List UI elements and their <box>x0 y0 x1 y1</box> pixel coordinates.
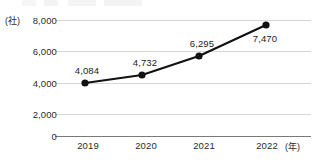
x-axis-unit-label: (年) <box>285 140 300 153</box>
series-line <box>85 25 266 83</box>
x-tick-label-2021: 2021 <box>193 140 215 151</box>
series-group <box>0 0 313 160</box>
x-tick-label-2020: 2020 <box>135 140 157 151</box>
x-tick-label-2019: 2019 <box>77 140 99 151</box>
data-point-2020 <box>138 71 145 78</box>
data-label-2019: 4,084 <box>75 65 99 76</box>
data-label-2020: 4,732 <box>133 57 157 68</box>
x-tick-label-2022: 2022 <box>256 140 278 151</box>
data-point-2019 <box>81 79 88 86</box>
data-label-2021: 6,295 <box>190 38 214 49</box>
data-label-2022: 7,470 <box>253 33 277 44</box>
line-chart: (社) 8,000 6,000 4,000 2,000 0 4,084 4,73… <box>0 0 313 160</box>
data-point-2021 <box>195 52 202 59</box>
data-point-2022 <box>262 21 269 28</box>
